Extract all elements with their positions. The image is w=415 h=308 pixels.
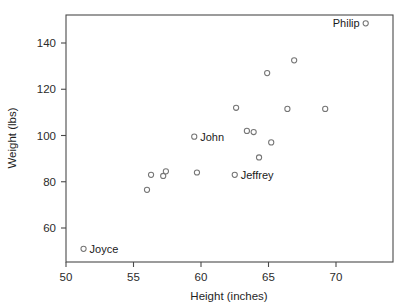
- x-tick-label: 70: [330, 271, 343, 283]
- x-tick-label: 60: [195, 271, 208, 283]
- x-tick-label: 55: [127, 271, 140, 283]
- scatter-plot-figure: 5055606570 6080100120140 JoyceJohnJeffre…: [0, 0, 415, 308]
- x-tick-label: 65: [262, 271, 275, 283]
- data-point-label: Jeffrey: [241, 169, 274, 181]
- y-axis-ticks: 6080100120140: [37, 37, 66, 234]
- data-point: [244, 128, 249, 133]
- data-point: [323, 106, 328, 111]
- data-point-label: John: [200, 131, 224, 143]
- y-axis-title: Weight (lbs): [6, 107, 18, 168]
- data-point: [363, 21, 368, 26]
- plot-frame: [66, 15, 393, 262]
- data-point: [251, 129, 256, 134]
- y-tick-label: 80: [43, 176, 56, 188]
- data-point: [285, 106, 290, 111]
- x-tick-label: 50: [60, 271, 73, 283]
- data-point: [269, 140, 274, 145]
- data-point: [81, 246, 86, 251]
- data-point: [292, 58, 297, 63]
- y-tick-label: 60: [43, 222, 56, 234]
- data-point: [194, 170, 199, 175]
- data-points-group: JoyceJohnJeffreyPhilip: [81, 17, 368, 254]
- data-point: [192, 134, 197, 139]
- x-axis-title: Height (inches): [190, 290, 268, 302]
- data-point: [256, 155, 261, 160]
- y-tick-label: 100: [37, 130, 56, 142]
- data-point: [163, 169, 168, 174]
- data-point: [234, 105, 239, 110]
- x-axis-ticks: 5055606570: [60, 262, 343, 283]
- data-point-label: Joyce: [90, 243, 119, 255]
- data-point-label: Philip: [333, 17, 360, 29]
- data-point: [148, 172, 153, 177]
- chart-canvas: 5055606570 6080100120140 JoyceJohnJeffre…: [0, 0, 415, 308]
- data-point: [232, 172, 237, 177]
- data-point: [265, 70, 270, 75]
- y-tick-label: 140: [37, 37, 56, 49]
- y-tick-label: 120: [37, 83, 56, 95]
- data-point: [144, 187, 149, 192]
